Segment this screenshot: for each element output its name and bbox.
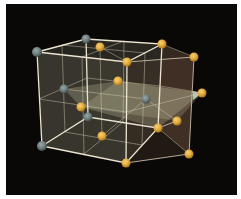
grey-atom — [32, 47, 42, 57]
grey-atom — [60, 85, 69, 94]
grey-atom — [84, 113, 93, 122]
gold-atom — [122, 159, 131, 168]
gold-atom — [154, 124, 163, 133]
gold-atom — [77, 103, 86, 112]
gold-atom — [185, 150, 194, 159]
gold-atom — [190, 53, 199, 62]
gold-atom — [123, 58, 132, 67]
grey-atom — [142, 95, 151, 104]
gold-atom — [98, 132, 107, 141]
gold-atom — [198, 89, 207, 98]
gold-atom — [173, 117, 182, 126]
lattice-diagram — [0, 0, 241, 199]
gold-atom — [114, 77, 123, 86]
grey-atom — [82, 35, 91, 44]
gold-atom — [96, 43, 105, 52]
gold-atom — [158, 40, 167, 49]
grey-atom — [37, 141, 47, 151]
